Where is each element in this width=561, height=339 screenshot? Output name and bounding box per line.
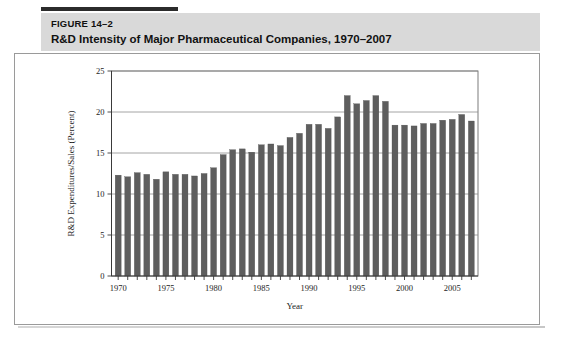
figure-header-band: FIGURE 14–2 R&D Intensity of Major Pharm… [41,13,540,51]
figure-shadow [18,326,545,328]
figure-border-box [14,53,540,325]
figure-number: FIGURE 14–2 [51,17,540,30]
figure-root: FIGURE 14–2 R&D Intensity of Major Pharm… [0,0,561,339]
figure-top-rule [41,7,178,11]
figure-title: R&D Intensity of Major Pharmaceutical Co… [51,31,540,48]
